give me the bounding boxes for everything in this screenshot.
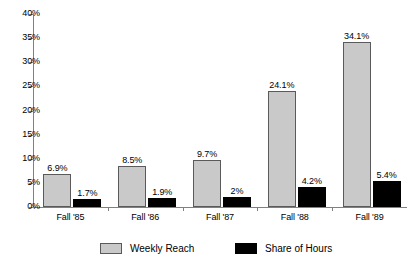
x-axis-separator: [183, 207, 184, 211]
bar-weekly-reach[interactable]: [193, 160, 221, 207]
bar-value-label-weekly-reach: 8.5%: [112, 155, 152, 165]
bar-group: 24.1%4.2%: [257, 14, 332, 207]
legend-label: Share of Hours: [265, 243, 332, 254]
x-axis-tick-label: Fall '85: [33, 212, 108, 223]
bar-value-label-share-of-hours: 4.2%: [292, 176, 332, 186]
bar-group: 6.9%1.7%: [33, 14, 108, 207]
legend-item[interactable]: Weekly Reach: [100, 241, 194, 255]
bar-value-label-weekly-reach: 6.9%: [37, 163, 77, 173]
bar-weekly-reach[interactable]: [343, 42, 371, 207]
bar-value-label-weekly-reach: 34.1%: [337, 31, 377, 41]
x-axis-tick-label: Fall '86: [108, 212, 183, 223]
bar-value-label-weekly-reach: 24.1%: [262, 80, 302, 90]
bar-share-of-hours[interactable]: [73, 199, 101, 207]
bar-group: 34.1%5.4%: [332, 14, 407, 207]
legend-label: Weekly Reach: [130, 243, 194, 254]
x-axis-separator: [257, 207, 258, 211]
bar-value-label-share-of-hours: 1.7%: [67, 188, 107, 198]
bar-value-label-share-of-hours: 5.4%: [367, 170, 407, 180]
bar-share-of-hours[interactable]: [373, 181, 401, 207]
bar-value-label-share-of-hours: 2%: [217, 186, 257, 196]
gray-swatch: [100, 243, 122, 254]
bar-share-of-hours[interactable]: [148, 198, 176, 207]
bar-share-of-hours[interactable]: [298, 187, 326, 207]
bar-weekly-reach[interactable]: [268, 91, 296, 207]
bar-value-label-weekly-reach: 9.7%: [187, 149, 227, 159]
bar-group: 8.5%1.9%: [108, 14, 183, 207]
chart-legend: Weekly ReachShare of Hours: [0, 241, 412, 259]
bar-chart: 0%5%10%15%20%25%30%35%40% 6.9%1.7%8.5%1.…: [0, 0, 412, 265]
bar-group: 9.7%2%: [183, 14, 258, 207]
x-axis-separator: [332, 207, 333, 211]
x-axis-tick-label: Fall '89: [332, 212, 407, 223]
bar-share-of-hours[interactable]: [223, 197, 251, 207]
bar-value-label-share-of-hours: 1.9%: [142, 187, 182, 197]
x-axis-tick-label: Fall '87: [183, 212, 258, 223]
x-axis-line: [33, 207, 407, 208]
x-axis-tick-label: Fall '88: [257, 212, 332, 223]
legend-item[interactable]: Share of Hours: [235, 241, 332, 255]
x-axis-separator: [108, 207, 109, 211]
plot-area: 6.9%1.7%8.5%1.9%9.7%2%24.1%4.2%34.1%5.4%: [33, 14, 407, 207]
black-swatch: [235, 243, 257, 254]
